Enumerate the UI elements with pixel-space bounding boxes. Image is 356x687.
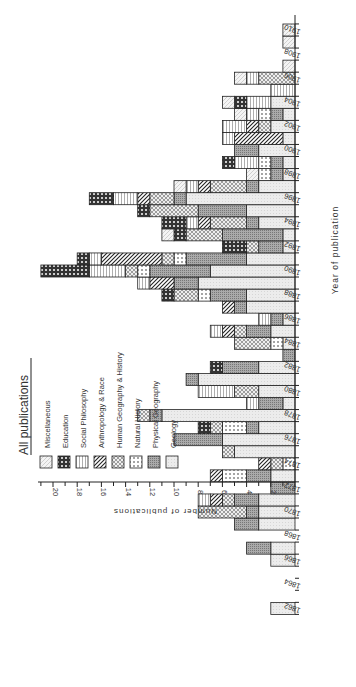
bar-segment (235, 157, 259, 169)
bar-segment (247, 181, 259, 193)
bar-segment (162, 410, 295, 422)
bar-segment (186, 193, 295, 205)
bar-segment (89, 253, 101, 265)
bar-segment (210, 289, 246, 301)
bars-group (41, 24, 295, 614)
bar-segment (174, 277, 198, 289)
legend-swatch (166, 456, 178, 468)
legend: All publicationsMiscellaneousEducationSo… (17, 352, 178, 468)
bar-segment (247, 325, 271, 337)
bar-segment (114, 193, 138, 205)
bar-segment (247, 96, 271, 108)
bar-segment (150, 277, 174, 289)
bar-segment (89, 193, 113, 205)
bar-segment (210, 470, 222, 482)
bar-segment (138, 193, 150, 205)
bar-segment (186, 217, 198, 229)
bar-segment (235, 132, 283, 144)
bar-segment (271, 108, 283, 120)
bar-segment (138, 277, 150, 289)
y-tick-label: 14 (124, 488, 133, 496)
bar-segment (235, 494, 259, 506)
bar-segment (222, 241, 246, 253)
legend-swatch (148, 456, 160, 468)
bar-segment (210, 422, 222, 434)
bar-segment (283, 157, 295, 169)
y-tick-label: 20 (51, 488, 60, 496)
bar-segment (77, 253, 89, 265)
bar-segment (271, 337, 283, 349)
bar-segment (198, 494, 210, 506)
bar-segment (174, 289, 198, 301)
bar-segment (247, 253, 295, 265)
bar-segment (198, 181, 210, 193)
y-tick-label: 8 (196, 490, 205, 494)
bar-segment (186, 181, 198, 193)
bar-segment (186, 373, 198, 385)
bar-segment (222, 120, 246, 132)
x-tick-label: 1864 (283, 577, 302, 591)
bar-segment (235, 96, 247, 108)
bar-segment (247, 542, 271, 554)
legend-swatch (40, 456, 52, 468)
bar-segment (271, 84, 295, 96)
bar-segment (222, 361, 258, 373)
bar-segment (210, 361, 222, 373)
legend-swatch (112, 456, 124, 468)
bar-segment (210, 181, 246, 193)
bar-segment (247, 205, 295, 217)
bar-segment (198, 373, 295, 385)
bar-segment (259, 241, 283, 253)
bar-segment (259, 494, 295, 506)
bar-segment (247, 398, 259, 410)
bar-segment (222, 422, 246, 434)
bar-segment (198, 289, 210, 301)
bar-segment (283, 108, 295, 120)
bar-segment (259, 398, 283, 410)
x-axis-title: Year of publication (330, 206, 340, 295)
bar-segment (186, 229, 222, 241)
y-tick-label: 16 (99, 488, 108, 496)
bar-segment (247, 169, 259, 181)
bar-segment (198, 205, 246, 217)
bar-segment (222, 157, 234, 169)
bar-segment (210, 325, 222, 337)
bar-segment (259, 422, 295, 434)
legend-label: Natural History (133, 398, 142, 448)
bar-segment (210, 217, 246, 229)
bar-segment (89, 265, 125, 277)
bar-segment (222, 301, 234, 313)
bar-segment (235, 337, 271, 349)
bar-segment (247, 217, 259, 229)
x-tick-label: 1908 (283, 47, 302, 61)
legend-swatch (94, 456, 106, 468)
bar-segment (283, 349, 295, 361)
bar-segment (198, 386, 234, 398)
bar-segment (174, 193, 186, 205)
bar-segment (247, 108, 259, 120)
bar-segment (41, 265, 89, 277)
legend-label: Geology (169, 420, 178, 448)
bar-segment (283, 398, 295, 410)
bar-segment (235, 72, 247, 84)
bar-segment (259, 313, 271, 325)
legend-swatch (58, 456, 70, 468)
bar-segment (222, 470, 246, 482)
bar-segment (259, 181, 295, 193)
bar-segment (259, 518, 295, 530)
bar-segment (162, 217, 186, 229)
bar-segment (174, 253, 186, 265)
bar-segment (150, 265, 211, 277)
bar-segment (210, 494, 222, 506)
bar-segment (247, 470, 271, 482)
bar-segment (271, 169, 283, 181)
y-axis-title: Number of publications (113, 507, 217, 516)
bar-segment (271, 313, 283, 325)
legend-label: Education (61, 415, 70, 448)
legend-label: Anthropology & Race (97, 377, 106, 448)
y-tick-label: 2 (269, 490, 278, 494)
legend-label: Miscellaneous (43, 400, 52, 448)
bar-segment (126, 265, 138, 277)
bar-segment (259, 120, 271, 132)
bar-segment (271, 325, 295, 337)
